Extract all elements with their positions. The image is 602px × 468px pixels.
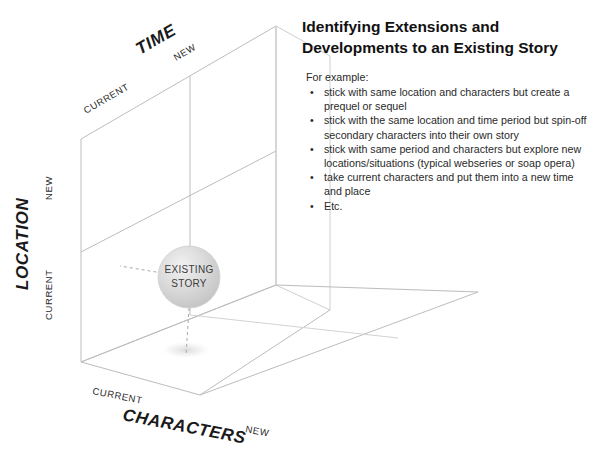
list-item: • stick with same period and characters …	[302, 142, 594, 170]
node-sphere[interactable]	[158, 246, 220, 308]
node-label-line1: EXISTING	[164, 264, 213, 275]
axis-time-tick-current: CURRENT	[82, 81, 131, 116]
axis-location-tick-current: CURRENT	[43, 269, 54, 320]
slide-canvas: EXISTING STORY TIME CURRENT NEW LOCATION…	[0, 0, 602, 468]
list-item-text: Etc.	[324, 200, 342, 212]
back-wall-horizontal-divider	[81, 151, 276, 252]
axis-time: TIME CURRENT NEW	[82, 20, 198, 115]
axis-characters-tick-new: NEW	[245, 423, 271, 438]
axis-time-tick-new: NEW	[172, 41, 198, 63]
list-item: • stick with the same location and time …	[302, 113, 594, 141]
node-label-line2: STORY	[171, 278, 207, 289]
axis-characters: CHARACTERS CURRENT NEW	[92, 385, 271, 448]
intro-text: For example:	[302, 70, 594, 84]
axis-characters-tick-current: CURRENT	[92, 385, 144, 405]
list-item-text: stick with the same location and time pe…	[324, 114, 586, 140]
list-item-text: stick with same period and characters bu…	[324, 143, 581, 169]
bullet-marker: •	[310, 85, 314, 99]
existing-story-node[interactable]: EXISTING STORY	[158, 246, 220, 308]
floor-divider-a	[200, 310, 330, 395]
bullet-marker: •	[310, 142, 314, 156]
text-panel: Identifying Extensions and Developments …	[302, 16, 594, 213]
list-item-text: stick with same location and characters …	[324, 86, 569, 112]
bullet-marker: •	[310, 199, 314, 213]
example-bullet-list: • stick with same location and character…	[302, 85, 594, 213]
list-item: • take current characters and put them i…	[302, 170, 594, 198]
list-item: • stick with same location and character…	[302, 85, 594, 113]
axis-characters-title: CHARACTERS	[121, 405, 247, 448]
list-item-text: take current characters and put them int…	[324, 171, 574, 197]
bullet-marker: •	[310, 170, 314, 184]
page-title: Identifying Extensions and Developments …	[302, 16, 572, 58]
floor-divider-b	[190, 315, 398, 338]
floor-panel	[81, 285, 478, 395]
axis-location-title: LOCATION	[13, 198, 32, 290]
axis-location: LOCATION NEW CURRENT	[13, 176, 54, 320]
bullet-marker: •	[310, 113, 314, 127]
back-wall-panel	[81, 26, 276, 362]
axis-location-tick-new: NEW	[43, 176, 54, 200]
list-item: • Etc.	[302, 199, 594, 213]
